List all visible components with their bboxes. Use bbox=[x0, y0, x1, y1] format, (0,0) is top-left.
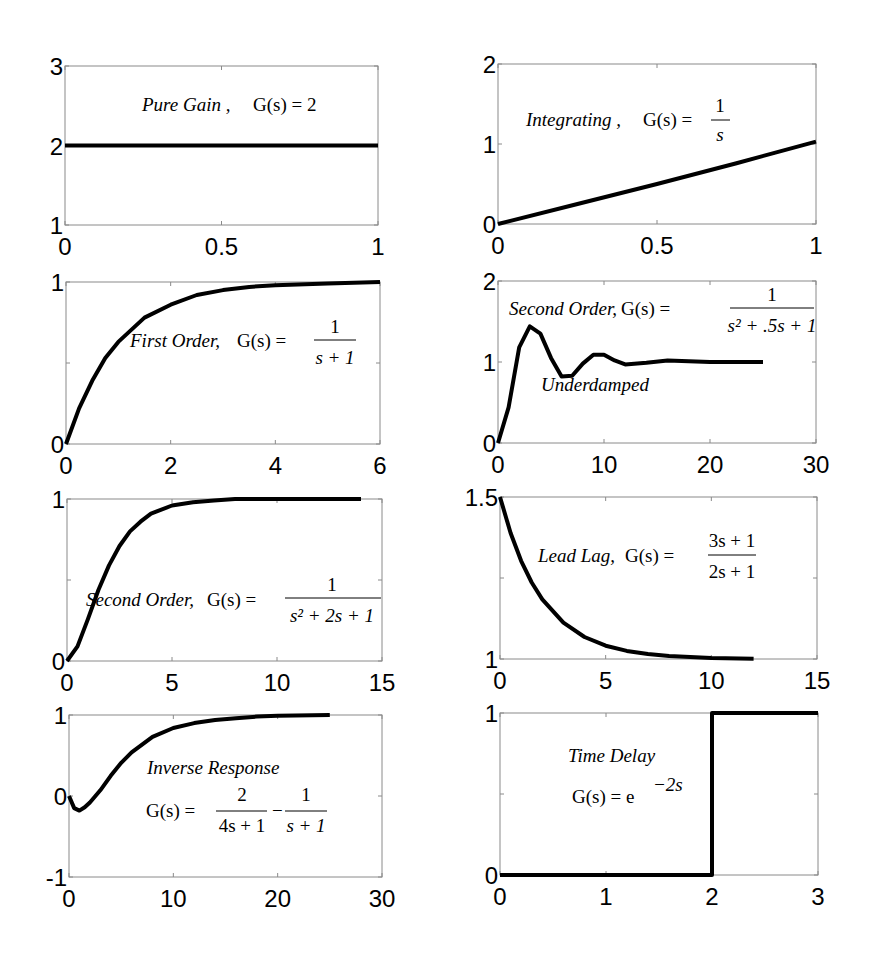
annotation-exponent: −2s bbox=[653, 774, 683, 795]
y-tick-label: 2 bbox=[483, 51, 496, 78]
annotation-numerator-1: 2 bbox=[237, 784, 247, 805]
annotation-denominator: s² + .5s + 1 bbox=[728, 315, 817, 336]
y-tick-label: 1.5 bbox=[465, 484, 498, 511]
y-tick-label: 1 bbox=[50, 212, 63, 239]
y-tick-label: 0 bbox=[485, 862, 498, 889]
annotation-numerator-2: 1 bbox=[301, 784, 311, 805]
x-tick-label: 2 bbox=[164, 452, 177, 479]
annotation-denominator: 2s + 1 bbox=[709, 561, 756, 582]
annotation-numerator: 1 bbox=[715, 95, 725, 116]
annotation-denominator: s² + 2s + 1 bbox=[290, 605, 374, 626]
y-tick-label: 0 bbox=[52, 648, 65, 675]
y-tick-label: 1 bbox=[485, 700, 498, 727]
subplot-inverse-response: 0102030-101Inverse ResponseG(s) =24s + 1… bbox=[46, 702, 396, 912]
x-tick-label: 10 bbox=[698, 667, 725, 694]
x-tick-label: 10 bbox=[264, 669, 291, 696]
annotation-denominator: s + 1 bbox=[315, 347, 354, 368]
annotation-label: Inverse Response bbox=[146, 757, 279, 778]
annotation-formula: G(s) = bbox=[207, 589, 256, 611]
subplot-lead-lag: 05101511.5Lead Lag,G(s) =3s + 12s + 1 bbox=[465, 484, 831, 694]
subplot-integrating: 00.51012Integrating ,G(s) =1s bbox=[483, 51, 823, 259]
y-tick-label: 1 bbox=[483, 349, 496, 376]
annotation-denominator-2: s + 1 bbox=[286, 815, 325, 836]
axes-box bbox=[498, 64, 816, 224]
annotation-formula: G(s) = bbox=[643, 109, 692, 131]
annotation-numerator: 1 bbox=[327, 574, 337, 595]
subplot-second-order-underdamped: 0102030012Second Order,G(s) =1s² + .5s +… bbox=[483, 268, 830, 478]
annotation-minus: − bbox=[272, 800, 283, 821]
y-tick-label: 1 bbox=[485, 646, 498, 673]
x-tick-label: 2 bbox=[705, 883, 718, 910]
annotation-formula: G(s) = bbox=[625, 545, 674, 567]
annotation-label: Lead Lag, bbox=[537, 545, 615, 566]
x-tick-label: 15 bbox=[369, 669, 396, 696]
annotation-numerator: 3s + 1 bbox=[709, 530, 756, 551]
annotation-label: Second Order, bbox=[86, 589, 194, 610]
x-tick-label: 3 bbox=[811, 883, 824, 910]
y-tick-label: 2 bbox=[50, 133, 63, 160]
x-tick-label: 5 bbox=[165, 669, 178, 696]
annotation-label: Time Delay bbox=[568, 745, 656, 766]
y-tick-label: 1 bbox=[54, 702, 67, 729]
annotation-formula: G(s) = 2 bbox=[253, 94, 317, 116]
y-tick-label: 3 bbox=[50, 53, 63, 80]
annotation-formula: G(s) = bbox=[146, 800, 195, 822]
y-tick-label: -1 bbox=[46, 864, 67, 891]
annotation-label: Integrating , bbox=[525, 109, 621, 130]
annotation-formula: G(s) = bbox=[237, 330, 286, 352]
x-tick-label: 15 bbox=[804, 667, 831, 694]
x-tick-label: 5 bbox=[599, 667, 612, 694]
x-tick-label: 6 bbox=[373, 452, 386, 479]
annotation-label: First Order, bbox=[129, 330, 220, 351]
y-tick-label: 2 bbox=[483, 268, 496, 295]
x-tick-label: 1 bbox=[809, 232, 822, 259]
annotation-denominator: s bbox=[716, 124, 723, 145]
x-tick-label: 4 bbox=[269, 452, 282, 479]
x-tick-label: 30 bbox=[803, 451, 830, 478]
axes-box bbox=[69, 715, 382, 877]
annotation-formula: G(s) = bbox=[621, 298, 670, 320]
figure: 00.51123Pure Gain ,G(s) = 200.51012Integ… bbox=[0, 0, 875, 961]
x-tick-label: 10 bbox=[591, 451, 618, 478]
y-tick-label: 0 bbox=[483, 430, 496, 457]
axes-box bbox=[500, 497, 817, 659]
y-tick-label: 0 bbox=[51, 431, 64, 458]
annotation-note: Underdamped bbox=[541, 374, 649, 395]
annotation-denominator-1: 4s + 1 bbox=[219, 815, 266, 836]
subplot-pure-gain: 00.51123Pure Gain ,G(s) = 2 bbox=[50, 53, 385, 260]
subplot-time-delay: 012301Time DelayG(s) = e−2s bbox=[485, 700, 825, 910]
y-tick-label: 0 bbox=[483, 211, 496, 238]
x-tick-label: 20 bbox=[697, 451, 724, 478]
x-tick-label: 30 bbox=[369, 885, 396, 912]
annotation-label: Second Order, bbox=[509, 298, 617, 319]
y-tick-label: 1 bbox=[483, 131, 496, 158]
subplot-first-order: 024601First Order,G(s) =1s + 1 bbox=[51, 269, 387, 479]
annotation-formula: G(s) = e bbox=[572, 786, 634, 808]
annotation-label: Pure Gain , bbox=[141, 94, 230, 115]
annotation-numerator: 1 bbox=[767, 284, 777, 305]
x-tick-label: 0.5 bbox=[640, 232, 673, 259]
y-tick-label: 1 bbox=[51, 269, 64, 296]
subplot-second-order-critically-damped: 05101501Second Order,G(s) =1s² + 2s + 1 bbox=[52, 486, 396, 696]
y-tick-label: 0 bbox=[54, 783, 67, 810]
y-tick-label: 1 bbox=[52, 486, 65, 513]
x-tick-label: 20 bbox=[264, 885, 291, 912]
x-tick-label: 1 bbox=[599, 883, 612, 910]
x-tick-label: 1 bbox=[371, 233, 384, 260]
x-tick-label: 0.5 bbox=[205, 233, 238, 260]
annotation-numerator: 1 bbox=[330, 316, 340, 337]
x-tick-label: 10 bbox=[160, 885, 187, 912]
